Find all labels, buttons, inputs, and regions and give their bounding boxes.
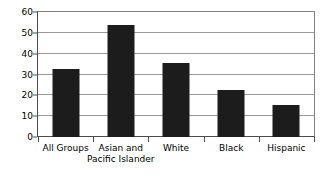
x-tick-label: Black bbox=[219, 143, 243, 154]
y-tick-label: 10 bbox=[0, 112, 33, 121]
y-tick-label: 40 bbox=[0, 49, 33, 58]
bar[interactable] bbox=[162, 63, 189, 137]
x-tick-label-line: Hispanic bbox=[267, 143, 305, 153]
x-tick-mark bbox=[259, 137, 260, 142]
x-tick-label-line: All Groups bbox=[43, 143, 89, 153]
x-tick-mark bbox=[314, 137, 315, 142]
y-tick-label: 30 bbox=[0, 70, 33, 79]
x-tick-label-line: White bbox=[163, 143, 189, 153]
y-tick-label: 50 bbox=[0, 28, 33, 37]
y-tick-label: 60 bbox=[0, 8, 33, 17]
bar[interactable] bbox=[218, 90, 245, 137]
y-tick-label: 20 bbox=[0, 91, 33, 100]
y-tick-label: 0 bbox=[0, 133, 33, 142]
x-tick-label-line: Pacific Islander bbox=[87, 154, 154, 165]
bar[interactable] bbox=[107, 25, 134, 137]
bar-slot bbox=[148, 12, 203, 137]
bar[interactable] bbox=[52, 69, 79, 137]
x-tick-mark bbox=[148, 137, 149, 142]
x-tick-mark bbox=[204, 137, 205, 142]
x-tick-mark bbox=[93, 137, 94, 142]
bar-slot bbox=[38, 12, 93, 137]
bar-slot bbox=[204, 12, 259, 137]
x-tick-label: All Groups bbox=[43, 143, 89, 154]
x-tick-label: Hispanic bbox=[267, 143, 305, 154]
bars-layer bbox=[38, 12, 314, 137]
bar-chart: 0102030405060 All GroupsAsian andPacific… bbox=[0, 0, 325, 176]
x-tick-label-line: Black bbox=[219, 143, 243, 153]
x-tick-label: White bbox=[163, 143, 189, 154]
x-tick-label-line: Asian and bbox=[99, 143, 143, 153]
bar[interactable] bbox=[273, 105, 300, 137]
bar-slot bbox=[93, 12, 148, 137]
bar-slot bbox=[259, 12, 314, 137]
x-tick-mark bbox=[38, 137, 39, 142]
x-tick-label: Asian andPacific Islander bbox=[87, 143, 154, 165]
